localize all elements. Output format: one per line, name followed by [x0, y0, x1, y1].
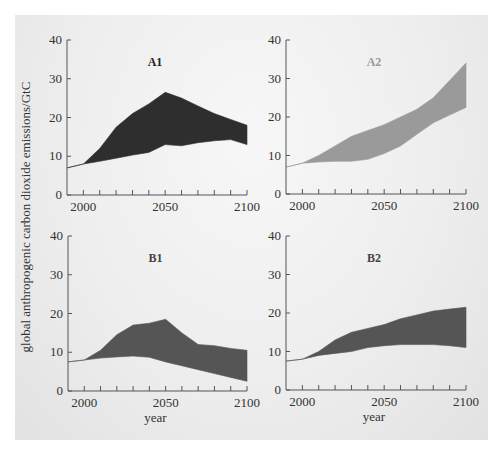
y-axis-label: global anthropogenic carbon dioxide emis… — [18, 82, 33, 353]
y-tick-label: 20 — [49, 110, 62, 125]
y-tick-label: 40 — [268, 228, 281, 243]
y-tick-label: 30 — [268, 267, 281, 282]
y-tick-label: 20 — [268, 305, 281, 320]
y-tick-label: 10 — [49, 148, 62, 163]
emissions-range-area — [67, 92, 247, 168]
emissions-range-area — [286, 307, 466, 361]
x-tick-label: 2100 — [234, 199, 260, 214]
panel-a2: 010203040200020502100A2 — [268, 32, 479, 213]
x-tick-label: 2100 — [453, 394, 479, 409]
y-tick-label: 10 — [268, 344, 281, 359]
y-tick-label: 20 — [268, 109, 281, 124]
y-tick-label: 10 — [268, 148, 281, 163]
x-tick-label: 2100 — [453, 198, 479, 213]
y-tick-label: 0 — [56, 187, 63, 202]
x-axis-label: year — [144, 410, 167, 425]
panel-title: B2 — [367, 251, 381, 265]
y-tick-label: 30 — [49, 71, 62, 86]
panel-title: B1 — [148, 251, 162, 265]
x-tick-label: 2000 — [289, 198, 315, 213]
y-tick-label: 10 — [50, 344, 63, 359]
panel-a1: 010203040200020502100A1 — [49, 32, 260, 214]
panel-title: A2 — [367, 55, 382, 69]
x-tick-label: 2100 — [234, 395, 260, 410]
emissions-range-area — [68, 319, 247, 381]
x-tick-label: 2000 — [70, 199, 96, 214]
y-tick-label: 40 — [50, 228, 63, 243]
y-tick-label: 20 — [50, 306, 63, 321]
y-tick-label: 40 — [49, 32, 62, 47]
y-tick-label: 30 — [268, 71, 281, 86]
y-tick-label: 40 — [268, 32, 281, 47]
panel-title: A1 — [148, 55, 163, 69]
y-tick-label: 30 — [50, 267, 63, 282]
emissions-range-area — [286, 63, 466, 167]
x-tick-label: 2000 — [289, 394, 315, 409]
emissions-figure: global anthropogenic carbon dioxide emis… — [0, 0, 503, 454]
x-axis-label: year — [363, 409, 386, 424]
x-tick-label: 2050 — [152, 199, 178, 214]
x-tick-label: 2050 — [371, 394, 397, 409]
panel-b1: 010203040200020502100B1year — [50, 228, 260, 425]
x-tick-label: 2050 — [153, 395, 179, 410]
x-tick-label: 2000 — [71, 395, 97, 410]
y-tick-label: 0 — [57, 383, 64, 398]
y-tick-label: 0 — [275, 382, 282, 397]
x-tick-label: 2050 — [371, 198, 397, 213]
panel-b2: 010203040200020502100B2year — [268, 228, 479, 424]
y-tick-label: 0 — [275, 186, 282, 201]
